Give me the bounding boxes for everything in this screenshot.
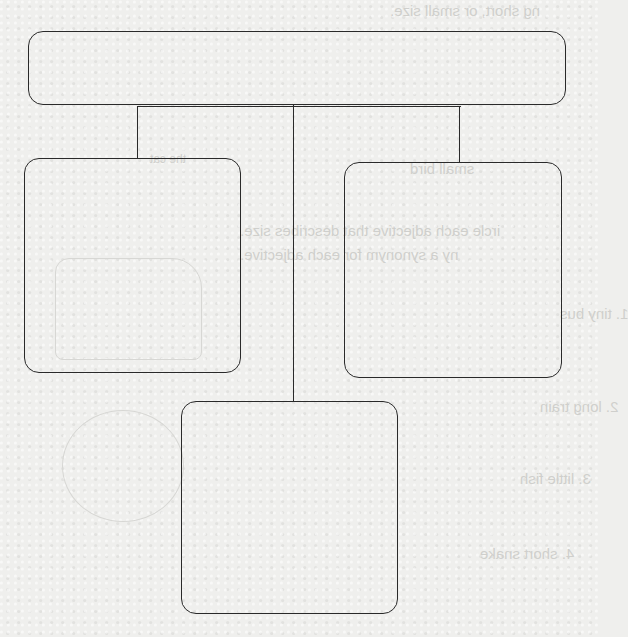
connector-horizontal: [137, 106, 461, 107]
root-box[interactable]: [28, 31, 566, 105]
child-box-right[interactable]: [344, 162, 562, 378]
child-box-bottom[interactable]: [181, 401, 398, 614]
connector-right: [459, 106, 460, 163]
connector-center: [293, 104, 294, 402]
child-box-left[interactable]: [24, 158, 241, 373]
connector-left: [137, 106, 138, 159]
